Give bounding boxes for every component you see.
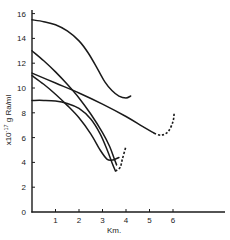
x-tick-label: 5: [147, 216, 152, 225]
x-tick-label: 3: [100, 216, 105, 225]
y-axis-title: x10-17 g Ra/ml: [3, 94, 13, 145]
x-tick-label: 6: [171, 216, 176, 225]
x-tick-label: 1: [53, 216, 58, 225]
axes: [31, 10, 225, 213]
series-line-3: [32, 73, 154, 133]
plot-curves: [32, 20, 174, 171]
series-line-2: [32, 51, 117, 165]
y-tick-label: 8: [22, 109, 27, 118]
y-tick-label: 0: [22, 208, 27, 217]
y-tick-label: 16: [17, 10, 26, 19]
x-tick-label: 4: [124, 216, 129, 225]
y-tick-label: 4: [22, 158, 27, 167]
line-chart: 0246810121416 123456 Km. x10-17 g Ra/ml: [0, 0, 230, 240]
y-tick-label: 14: [17, 34, 26, 43]
x-axis-title: Km.: [107, 226, 121, 235]
y-tick-label: 10: [17, 84, 26, 93]
y-tick-label: 12: [17, 59, 26, 68]
series-dashed-extension-3: [154, 113, 174, 135]
y-tick-label: 6: [22, 134, 27, 143]
y-tick-label: 2: [22, 183, 27, 192]
x-tick-label: 2: [77, 216, 82, 225]
